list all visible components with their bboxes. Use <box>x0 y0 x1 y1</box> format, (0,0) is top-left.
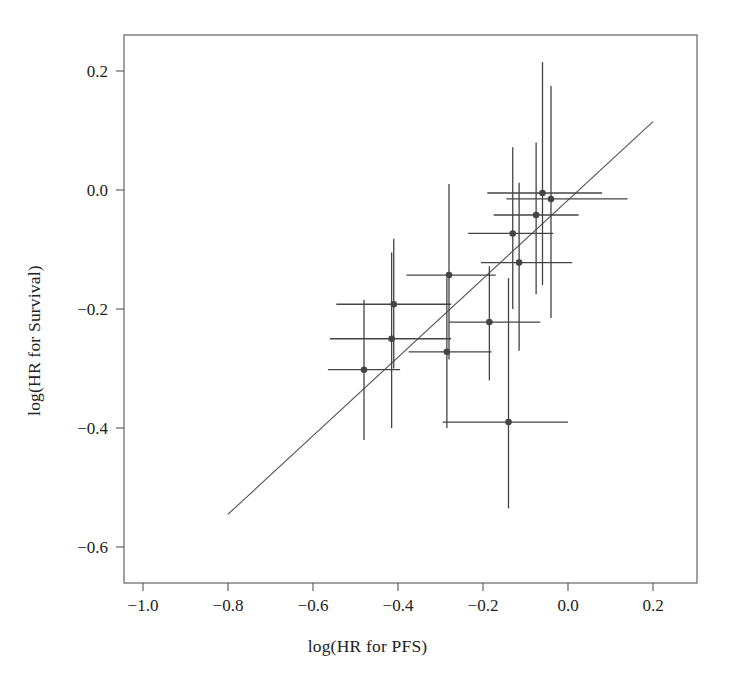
y-tick-label: −0.2 <box>77 300 108 319</box>
y-tick-label: 0.2 <box>87 62 108 81</box>
data-point: (-0.415, -0.25) <box>388 335 395 342</box>
x-tick-label: −1.0 <box>128 596 159 615</box>
data-point: (-0.13, -0.073) <box>509 230 516 237</box>
data-point: (-0.06, -0.005) <box>539 190 546 197</box>
data-points-group: (-0.48, -0.302)(-0.415, -0.25)(-0.41, -0… <box>361 190 555 426</box>
data-point: (-0.48, -0.302) <box>361 366 368 373</box>
x-tick-label: 0.0 <box>557 596 578 615</box>
data-point: (-0.075, -0.042) <box>533 212 540 219</box>
ticks-group <box>116 71 653 591</box>
error-bar <box>409 278 492 428</box>
data-point: (-0.04, -0.015) <box>548 196 555 203</box>
fit-line <box>228 122 653 515</box>
error-bar <box>481 183 572 351</box>
figure-container: −1.0−0.8−0.6−0.4−0.20.00.20.20.0−0.2−0.4… <box>0 0 735 697</box>
scatter-plot: −1.0−0.8−0.6−0.4−0.20.00.20.20.0−0.2−0.4… <box>0 0 735 697</box>
error-bar <box>407 184 496 360</box>
error-bar <box>468 147 553 309</box>
error-bar <box>443 278 568 508</box>
data-point: (-0.28, -0.143) <box>446 272 453 279</box>
y-tick-label: −0.4 <box>77 419 108 438</box>
data-point: (-0.41, -0.192) <box>390 301 397 308</box>
error-bar <box>449 266 540 380</box>
y-tick-label: −0.6 <box>77 538 108 557</box>
error-bar <box>487 62 602 285</box>
data-point: (-0.14, -0.39) <box>505 419 512 426</box>
data-point: (-0.185, -0.222) <box>486 319 493 326</box>
data-point: (-0.115, -0.122) <box>516 259 523 266</box>
data-point: (-0.285, -0.272) <box>444 349 451 356</box>
x-tick-label: 0.2 <box>642 596 663 615</box>
y-axis-title: log(HR for Survival) <box>24 221 45 461</box>
y-tick-label: 0.0 <box>87 181 108 200</box>
regression-line <box>228 122 653 515</box>
x-tick-label: −0.4 <box>383 596 414 615</box>
error-bar <box>506 86 627 318</box>
x-tick-label: −0.2 <box>468 596 499 615</box>
x-tick-label: −0.8 <box>213 596 244 615</box>
x-tick-label: −0.6 <box>298 596 329 615</box>
plot-frame <box>124 35 697 583</box>
axes-group <box>124 35 697 583</box>
error-bars-group <box>328 62 628 508</box>
x-axis-title: log(HR for PFS) <box>0 636 735 657</box>
